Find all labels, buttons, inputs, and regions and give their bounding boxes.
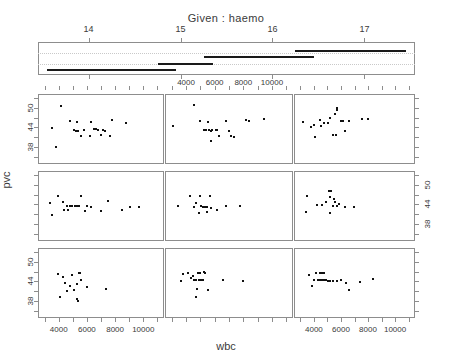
data-point [359,281,361,283]
data-point [78,205,80,207]
data-point [313,279,315,281]
data-point [76,121,78,123]
data-point [59,296,61,298]
y-axis-tick [415,108,419,109]
given-gridline [38,64,415,65]
x-axis-tick [59,318,60,322]
scatter-panel[interactable] [38,94,164,164]
data-point [211,129,213,131]
y-axis-tick [415,252,419,253]
coplot-figure: Given : haemo 14151617 40006000800010000… [0,0,452,360]
y-axis-tick [34,98,38,99]
data-point [195,296,197,298]
given-axis-tick [364,75,365,79]
data-point [210,140,212,142]
panel-matrix: 4000600080001000040006000800010000400060… [38,94,415,318]
given-axis-tick-label: 14 [84,24,94,34]
data-point [80,135,82,137]
data-point [325,201,327,203]
data-point [204,272,206,274]
scatter-panel[interactable] [38,248,164,318]
data-point [86,286,88,288]
data-point [310,126,312,128]
data-point [190,277,192,279]
y-axis-tick [415,195,419,196]
x-axis-tick [327,318,328,322]
x-axis-tick [382,318,383,322]
data-point [192,275,194,277]
x-axis-tick [382,86,383,90]
x-axis-name: wbc [0,340,452,352]
x-axis-tick [87,318,88,322]
given-interval-bar [185,63,213,65]
data-point [230,135,232,137]
data-point [216,129,218,131]
scatter-panel[interactable] [294,94,415,164]
y-axis-tick [34,175,38,176]
x-axis-tick [355,318,356,322]
scatter-panel[interactable] [294,248,415,318]
x-axis-tick [243,318,244,322]
data-point [129,206,131,208]
data-point [69,285,71,287]
data-point [180,280,182,282]
data-point [336,109,338,111]
y-axis-tick [415,291,419,292]
given-interval-bar [295,50,405,52]
data-point [73,129,75,131]
data-point [111,119,113,121]
y-axis-tick-label: 38 [26,296,35,305]
data-point [305,211,307,213]
data-point [316,204,318,206]
x-axis-tick [368,86,369,90]
data-point [77,130,79,132]
data-point [218,135,220,137]
y-axis-tick-label: 38 [26,142,35,151]
data-point [66,205,68,207]
data-point [195,202,197,204]
y-axis-tick [415,185,419,186]
data-point [172,125,174,127]
data-point [336,280,338,282]
data-point [308,274,310,276]
data-point [353,206,355,208]
data-point [332,280,334,282]
y-axis-tick-label: 50 [423,180,432,189]
data-point [193,206,195,208]
given-axis-tick [364,38,365,42]
data-point [335,134,337,136]
y-axis-tick-label: 44 [423,200,432,209]
x-axis-tick [73,86,74,90]
y-axis-tick-label: 50 [26,257,35,266]
scatter-panel[interactable] [294,171,415,241]
y-axis-tick [34,195,38,196]
x-axis-tick [341,318,342,322]
scatter-panel[interactable] [38,171,164,241]
y-axis-tick-label: 44 [26,123,35,132]
data-point [105,288,107,290]
data-point [199,195,201,197]
y-axis-tick [415,262,419,263]
data-point [329,117,331,119]
y-axis-tick [34,137,38,138]
data-point [323,122,325,124]
x-axis-tick [101,86,102,90]
data-point [206,206,208,208]
data-point [62,276,64,278]
data-point [64,282,66,284]
data-point [321,204,323,206]
y-axis-tick [415,118,419,119]
scatter-panel[interactable] [165,171,293,241]
panel-row [38,94,415,164]
given-panel-title: Given : haemo [0,12,452,24]
y-axis-tick [415,175,419,176]
x-axis-tick [87,86,88,90]
scatter-panel[interactable] [165,248,293,318]
y-axis-tick [415,311,419,312]
scatter-panel[interactable] [165,94,293,164]
given-axis-tick [272,38,273,42]
data-point [216,209,218,211]
x-axis-tick-label: 10000 [132,325,154,334]
x-axis-tick [300,318,301,322]
y-axis-tick [415,137,419,138]
